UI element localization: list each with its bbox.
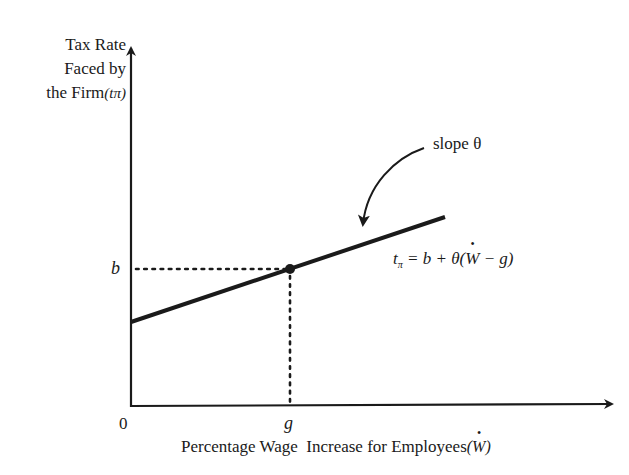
y-axis-label-line-2: Faced by	[0, 57, 126, 81]
y-axis-label: Tax Rate Faced by the Firm(tπ)	[0, 33, 126, 105]
y-axis-label-line-1: Tax Rate	[0, 33, 126, 57]
x-axis-symbol: (W)	[467, 438, 491, 455]
point-g-b	[285, 264, 295, 274]
y-tick-label-b: b	[111, 258, 120, 279]
y-axis-label-line-3: the Firm(tπ)	[0, 81, 126, 105]
slope-annotation-arrow	[363, 148, 424, 224]
x-axis	[130, 404, 612, 406]
equation-label: tπ = b + θ(W − g)	[393, 249, 514, 270]
x-axis-label: Percentage Wage Increase for Employees(W…	[181, 437, 491, 457]
y-axis-symbol: (tπ)	[104, 85, 126, 101]
origin-label: 0	[119, 414, 128, 434]
x-tick-label-g: g	[284, 413, 293, 434]
slope-annotation-label: slope θ	[433, 134, 481, 154]
